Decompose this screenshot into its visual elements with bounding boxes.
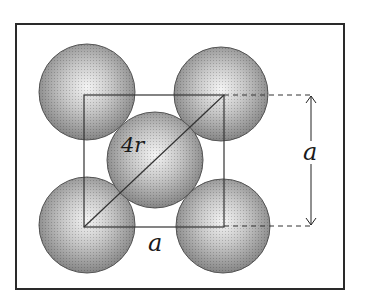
label-a-bottom: a	[148, 229, 162, 257]
bcc-unit-cell-diagram: 4r a a	[0, 0, 365, 295]
label-4r: 4r	[120, 133, 146, 157]
label-a-right: a	[303, 138, 317, 166]
atom-top-left	[39, 44, 135, 140]
